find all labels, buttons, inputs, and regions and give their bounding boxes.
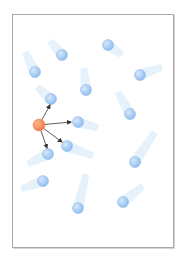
gas-molecule [62, 141, 73, 152]
collision-arrow [41, 131, 47, 148]
gas-molecule [73, 117, 84, 128]
gas-molecule [30, 67, 41, 78]
gas-molecule [130, 157, 141, 168]
collision-arrow [44, 129, 62, 142]
gas-molecule [57, 50, 68, 61]
collision-arrow [42, 105, 50, 120]
gas-molecule [73, 203, 84, 214]
tagged-particle [33, 119, 45, 131]
brownian-motion-scene [0, 0, 183, 257]
tagged-particle-circle [33, 119, 45, 131]
gas-molecule [135, 70, 146, 81]
gas-molecule [81, 85, 92, 96]
gas-molecule [46, 94, 57, 105]
gas-molecule [125, 109, 136, 120]
gas-molecule [43, 149, 54, 160]
gas-molecule [38, 176, 49, 187]
gas-molecule [103, 40, 114, 51]
gas-molecule [118, 197, 129, 208]
collision-arrow [45, 122, 71, 124]
